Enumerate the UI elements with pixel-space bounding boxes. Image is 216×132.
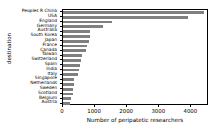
bar — [63, 45, 87, 48]
x-tick-mark — [158, 105, 159, 107]
bar-row — [63, 64, 207, 67]
bar-row — [63, 59, 207, 62]
bar-row — [63, 83, 207, 86]
bar-row — [63, 21, 207, 24]
bar — [63, 30, 90, 33]
bar — [63, 25, 103, 28]
bar-row — [63, 11, 207, 14]
bar — [63, 49, 86, 52]
x-axis-title: Number of peripatetic researchers — [62, 117, 208, 124]
bar-row — [63, 30, 207, 33]
y-tick-label: Austria — [41, 100, 57, 104]
x-axis-ticks: 01000200030004000 — [62, 105, 208, 117]
bar-row — [63, 54, 207, 57]
x-tick-label: 3000 — [151, 108, 165, 114]
bar-row — [63, 88, 207, 91]
bar — [63, 21, 112, 24]
x-tick-mark — [190, 105, 191, 107]
bar-row — [63, 25, 207, 28]
x-tick-mark — [126, 105, 127, 107]
plot-area — [62, 9, 208, 105]
bar-row — [63, 78, 207, 81]
bar — [63, 16, 188, 19]
bars-layer — [63, 10, 207, 104]
y-axis-title: destination — [6, 19, 13, 79]
x-tick-mark — [94, 105, 95, 107]
bar-row — [63, 93, 207, 96]
bar-row — [63, 45, 207, 48]
bar-row — [63, 49, 207, 52]
bar — [63, 35, 90, 38]
bar — [63, 69, 79, 72]
bar-row — [63, 69, 207, 72]
bar — [63, 11, 204, 14]
bar-chart-figure: Peoples R ChinaUSAEnglandGermanyAustrali… — [0, 0, 216, 132]
bar-row — [63, 35, 207, 38]
bar — [63, 54, 82, 57]
bar — [63, 59, 81, 62]
bar — [63, 73, 78, 76]
x-tick-label: 2000 — [119, 108, 133, 114]
bar — [63, 78, 74, 81]
bar — [63, 88, 73, 91]
bar-row — [63, 97, 207, 100]
x-tick-label: 1000 — [87, 108, 101, 114]
bar — [63, 97, 71, 100]
x-tick-label: 0 — [60, 108, 63, 114]
bar-row — [63, 40, 207, 43]
bar — [63, 83, 74, 86]
bar — [63, 64, 80, 67]
x-tick-label: 4000 — [183, 108, 197, 114]
bar — [63, 40, 89, 43]
bar-row — [63, 73, 207, 76]
bar — [63, 93, 73, 96]
bar-row — [63, 16, 207, 19]
x-tick-mark — [62, 105, 63, 107]
